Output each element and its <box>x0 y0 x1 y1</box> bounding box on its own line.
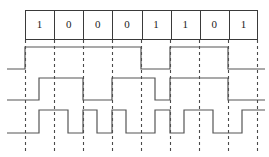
bit-cell-value-0: 1 <box>37 18 43 30</box>
bit-cell-value-6: 0 <box>212 18 218 30</box>
bit-cell-value-7: 1 <box>241 18 247 30</box>
bit-table: 10001101 <box>26 11 258 40</box>
timing-diagram-svg: 10001101 <box>0 0 269 157</box>
timing-diagram-figure: 10001101 <box>0 0 269 157</box>
bit-cell-value-4: 1 <box>153 18 159 30</box>
bit-cell-value-5: 1 <box>182 18 188 30</box>
bit-cell-value-1: 0 <box>66 18 72 30</box>
waveform-1 <box>7 47 265 69</box>
waveform-2 <box>7 78 265 100</box>
bit-cell-value-2: 0 <box>95 18 101 30</box>
waveforms <box>7 47 265 133</box>
waveform-3 <box>7 110 265 133</box>
bit-cell-value-3: 0 <box>124 18 130 30</box>
bit-table-outline <box>26 11 258 40</box>
